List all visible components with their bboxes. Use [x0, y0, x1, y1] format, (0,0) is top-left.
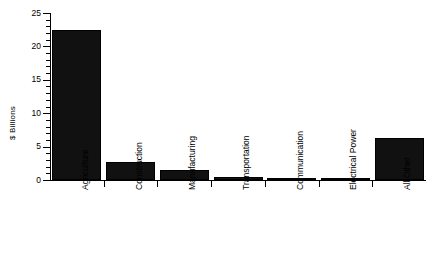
bar [52, 30, 101, 180]
y-axis-major-tick [43, 113, 50, 114]
y-axis-major-tick [43, 46, 50, 47]
x-axis-tick [211, 181, 212, 187]
y-axis-tick-label: 0 [13, 176, 41, 185]
x-axis-tick [265, 181, 266, 187]
x-axis-tick [319, 181, 320, 187]
y-axis-major-tick [43, 180, 50, 181]
y-axis-tick-label-text: 15 [15, 75, 41, 84]
x-axis-category-label: All Other [403, 157, 412, 190]
x-axis-tick [104, 181, 105, 187]
y-axis-tick-label: 25 [13, 9, 41, 18]
y-axis-tick-label: 15 [13, 75, 41, 84]
y-axis-tick-label-text: 0 [15, 176, 41, 185]
bar [375, 138, 424, 180]
y-axis-tick-label-text: 20 [15, 42, 41, 51]
x-axis-category-label: Manufacturing [188, 136, 197, 190]
x-axis-tick [372, 181, 373, 187]
y-axis-tick-label-text: 5 [15, 142, 41, 151]
x-axis-category-label: Electrical Power [349, 129, 358, 190]
y-axis-major-tick [43, 80, 50, 81]
bar [267, 178, 316, 181]
bar [106, 162, 155, 180]
plot-area [50, 13, 426, 180]
bar-chart: $ Billions 0510152025 AgricultureConstru… [0, 0, 437, 267]
y-axis-tick-label: 5 [13, 142, 41, 151]
bar [160, 170, 209, 180]
y-axis-tick-label-text: 10 [15, 109, 41, 118]
bar [214, 177, 263, 180]
y-axis-tick-label-text: 25 [15, 9, 41, 18]
y-axis-major-tick [43, 147, 50, 148]
x-axis-category-label: Agriculture [81, 149, 90, 190]
bar [321, 178, 370, 181]
y-axis-major-tick [43, 13, 50, 14]
x-axis-category-label: Construction [135, 142, 144, 190]
x-axis-category-label: Communication [296, 131, 305, 190]
x-axis-line [50, 180, 426, 181]
x-axis-tick [157, 181, 158, 187]
x-axis-category-label: Transportation [242, 136, 251, 191]
y-axis-tick-label: 10 [13, 109, 41, 118]
y-axis-tick-label: 20 [13, 42, 41, 51]
